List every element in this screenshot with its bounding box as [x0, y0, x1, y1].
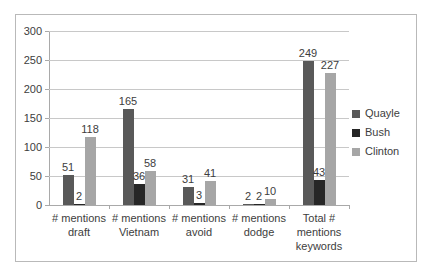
- y-tick-label-200: 200: [24, 84, 42, 95]
- y-tick-label-50: 50: [30, 171, 42, 182]
- legend-label: Quayle: [365, 108, 400, 119]
- bar-value-label: 51: [55, 162, 81, 173]
- bar-group: 1653658: [109, 31, 169, 205]
- bar-clinton-4: [325, 73, 336, 205]
- bar-group: 24943227: [289, 31, 349, 205]
- bar-clinton-3: [265, 199, 276, 205]
- bar-bush-2: [194, 203, 205, 205]
- bar-quayle-4: [303, 61, 314, 205]
- bar-value-label: 10: [257, 186, 283, 197]
- bar-value-label: 227: [317, 60, 343, 71]
- plot-area: 050100150200250300 512118165365831341221…: [49, 31, 349, 205]
- bar-clinton-0: [85, 137, 96, 205]
- bar-group: 2210: [229, 31, 289, 205]
- bar-group: 31341: [169, 31, 229, 205]
- bar-bush-4: [314, 180, 325, 205]
- category-separator: [169, 205, 170, 209]
- y-tick-label-300: 300: [24, 26, 42, 37]
- bar-quayle-1: [123, 109, 134, 205]
- legend-item-clinton[interactable]: Clinton: [352, 142, 400, 161]
- bar-bush-3: [254, 204, 265, 205]
- y-tick-label-150: 150: [24, 113, 42, 124]
- category-separator: [109, 205, 110, 209]
- category-separator: [289, 205, 290, 209]
- y-tick-label-100: 100: [24, 142, 42, 153]
- bar-value-label: 165: [115, 96, 141, 107]
- bar-value-label: 58: [137, 158, 163, 169]
- legend-swatch-icon: [352, 129, 360, 137]
- bar-value-label: 118: [77, 124, 103, 135]
- legend-item-bush[interactable]: Bush: [352, 123, 400, 142]
- bar-clinton-1: [145, 171, 156, 205]
- bar-group: 512118: [49, 31, 109, 205]
- y-tick-label-0: 0: [36, 200, 42, 211]
- legend-swatch-icon: [352, 148, 360, 156]
- category-separator: [349, 205, 350, 209]
- category-separator: [229, 205, 230, 209]
- legend-label: Clinton: [365, 146, 399, 157]
- bar-bush-1: [134, 184, 145, 205]
- bar-bush-0: [74, 204, 85, 205]
- bar-value-label: 41: [197, 168, 223, 179]
- gridline-0: [49, 205, 349, 206]
- y-tick-mark-0: [45, 205, 49, 206]
- legend-item-quayle[interactable]: Quayle: [352, 104, 400, 123]
- legend-swatch-icon: [352, 110, 360, 118]
- bar-value-label: 249: [295, 48, 321, 59]
- chart-legend: QuayleBushClinton: [352, 104, 400, 161]
- x-category-label: Total # mentions keywords: [283, 211, 355, 253]
- bar-quayle-3: [243, 204, 254, 205]
- bar-clinton-2: [205, 181, 216, 205]
- y-tick-label-250: 250: [24, 55, 42, 66]
- legend-label: Bush: [365, 127, 390, 138]
